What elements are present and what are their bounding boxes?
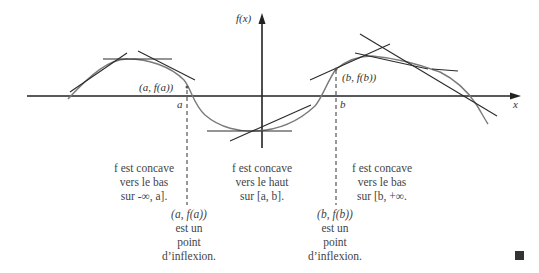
region-right-line-3: sur [b, +∞. (342, 189, 422, 203)
region-left-text: f est concave vers le bas sur -∞, a]. (106, 161, 182, 203)
b-point-label: (b, f(b)) (342, 71, 376, 84)
inflection-point-b (335, 68, 338, 71)
x-axis (27, 93, 521, 100)
inflection-a-line-3: point (157, 235, 221, 249)
concavity-diagram (0, 0, 539, 273)
end-of-proof-square-icon (515, 251, 524, 260)
inflection-a-line-1: (a, f(a)) (157, 207, 221, 221)
a-tick-label: a (177, 98, 183, 111)
a-point-label: (a, f(a)) (139, 81, 173, 94)
inflection-b-line-4: d’inflexion. (303, 249, 367, 263)
region-left-line-1: f est concave (106, 161, 182, 175)
region-middle-line-1: f est concave (222, 161, 302, 175)
region-middle-line-2: vers le haut (222, 175, 302, 189)
inflection-b-text: (b, f(b)) est un point d’inflexion. (303, 207, 367, 263)
y-axis-label: f(x) (236, 12, 251, 25)
inflection-a-text: (a, f(a)) est un point d’inflexion. (157, 207, 221, 263)
x-axis-label: x (513, 98, 518, 111)
inflection-b-line-1: (b, f(b)) (303, 207, 367, 221)
inflection-a-line-4: d’inflexion. (157, 249, 221, 263)
region-right-line-1: f est concave (342, 161, 422, 175)
region-right-text: f est concave vers le bas sur [b, +∞. (342, 161, 422, 203)
inflection-a-line-2: est un (157, 221, 221, 235)
region-middle-line-3: sur [a, b]. (222, 189, 302, 203)
region-right-line-2: vers le bas (342, 175, 422, 189)
y-axis-arrow-icon (259, 13, 266, 24)
inflection-b-line-2: est un (303, 221, 367, 235)
region-left-line-2: vers le bas (106, 175, 182, 189)
inflection-point-a (186, 86, 189, 89)
region-left-line-3: sur -∞, a]. (106, 189, 182, 203)
inflection-b-line-3: point (303, 235, 367, 249)
b-tick-label: b (340, 98, 346, 111)
region-middle-text: f est concave vers le haut sur [a, b]. (222, 161, 302, 203)
